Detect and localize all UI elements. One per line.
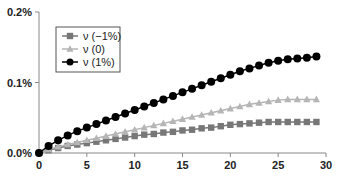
- data-point: [140, 102, 148, 110]
- data-point: [64, 131, 72, 139]
- legend-label: ν (−1%): [83, 30, 121, 42]
- x-tick-label: 25: [272, 159, 284, 171]
- data-point: [207, 78, 215, 86]
- series-line: [39, 122, 316, 153]
- data-point: [54, 136, 62, 144]
- data-point: [35, 149, 43, 157]
- data-point: [312, 52, 320, 60]
- data-point: [122, 134, 128, 140]
- data-point: [255, 62, 263, 70]
- data-point: [198, 81, 206, 89]
- data-point: [131, 133, 137, 139]
- data-point: [313, 119, 319, 125]
- data-point: [67, 59, 74, 66]
- data-point: [304, 119, 310, 125]
- data-point: [294, 119, 300, 125]
- data-point: [131, 106, 139, 114]
- x-tick-label: 0: [36, 159, 42, 171]
- data-point: [245, 64, 253, 72]
- data-point: [160, 129, 166, 135]
- data-point: [141, 131, 147, 137]
- x-tick-label: 15: [176, 159, 188, 171]
- data-point: [169, 92, 177, 100]
- data-point: [170, 129, 176, 135]
- data-point: [179, 127, 185, 133]
- data-point: [285, 119, 291, 125]
- data-point: [151, 131, 157, 137]
- data-point: [227, 122, 233, 128]
- data-point: [121, 110, 129, 118]
- data-point: [150, 99, 158, 107]
- data-point: [83, 124, 91, 132]
- data-point: [265, 119, 271, 125]
- y-tick-label: 0.2%: [7, 6, 32, 18]
- data-point: [256, 119, 262, 125]
- data-point: [275, 119, 281, 125]
- data-point: [189, 127, 195, 133]
- data-point: [217, 74, 225, 82]
- data-point: [112, 113, 120, 121]
- data-point: [274, 57, 282, 65]
- data-point: [73, 127, 81, 135]
- data-point: [45, 142, 53, 150]
- data-point: [293, 55, 301, 63]
- x-tick-label: 10: [129, 159, 141, 171]
- legend-label: ν (1%): [83, 56, 115, 68]
- data-point: [237, 121, 243, 127]
- data-point: [159, 95, 167, 103]
- y-tick-label: 0.0%: [7, 147, 32, 159]
- data-point: [102, 117, 110, 125]
- data-point: [284, 55, 292, 63]
- x-tick-label: 20: [224, 159, 236, 171]
- data-point: [188, 85, 196, 93]
- x-tick-label: 5: [84, 159, 90, 171]
- line-chart: 0510152025300.0%0.1%0.2% ν (−1%)ν (0)ν (…: [0, 0, 338, 184]
- data-point: [246, 120, 252, 126]
- data-point: [208, 124, 214, 130]
- data-point: [265, 59, 273, 67]
- data-point: [67, 33, 73, 39]
- data-point: [226, 71, 234, 79]
- legend-label: ν (0): [83, 43, 105, 55]
- x-tick-label: 30: [320, 159, 332, 171]
- data-point: [198, 125, 204, 131]
- legend: ν (−1%)ν (0)ν (1%): [56, 27, 121, 72]
- data-point: [303, 54, 311, 62]
- data-point: [179, 88, 187, 96]
- data-point: [236, 67, 244, 75]
- y-tick-label: 0.1%: [7, 77, 32, 89]
- series-square: [36, 119, 320, 156]
- data-point: [218, 123, 224, 129]
- data-point: [92, 120, 100, 128]
